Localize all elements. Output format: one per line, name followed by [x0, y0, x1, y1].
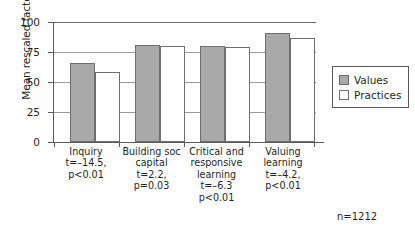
x-label-building-soc-capital-line2: capital	[119, 157, 184, 168]
x-label-critical-responsive-learning-p: p<0.01	[184, 192, 249, 203]
x-label-building-soc-capital-line1: Building soc	[119, 146, 184, 157]
x-label-valuing-learning: Valuing learning t=–4.2, p<0.01	[249, 146, 317, 192]
y-tick-label-50: 50	[27, 76, 40, 88]
y-tick-25: 25	[48, 112, 53, 113]
y-tick-label-75: 75	[27, 46, 40, 58]
x-label-inquiry-line1: Inquiry	[53, 146, 119, 157]
legend-label-practices: Practices	[354, 89, 401, 101]
x-label-critical-responsive-learning-line1: Critical and	[184, 146, 249, 157]
bar-practices-inquiry	[95, 72, 120, 142]
plot-area: 100 75 50 25 0	[53, 22, 316, 142]
x-axis-labels: Inquiry t=–14.5, p<0.01 Building soc cap…	[53, 146, 324, 216]
y-tick-label-25: 25	[27, 106, 40, 118]
y-tick-50: 50	[48, 82, 53, 83]
chart-legend: Values Practices	[332, 66, 409, 108]
y-tick-75: 75	[48, 52, 53, 53]
x-label-valuing-learning-line2: learning	[249, 157, 317, 168]
x-label-valuing-learning-p: p<0.01	[249, 180, 317, 191]
x-label-valuing-learning-line1: Valuing	[249, 146, 317, 157]
bar-group-container	[54, 22, 316, 142]
x-label-critical-responsive-learning-t: t=–6.3	[184, 180, 249, 191]
chart-figure: Mean rescaled factor score 100 75 50 25 …	[0, 0, 415, 242]
y-tick-label-100: 100	[20, 16, 40, 28]
y-tick-100: 100	[48, 22, 53, 23]
bar-practices-valuing-learning	[290, 38, 315, 142]
sample-size-note: n=1212	[337, 211, 377, 222]
legend-swatch-practices	[339, 90, 349, 100]
x-label-valuing-learning-t: t=–4.2,	[249, 169, 317, 180]
legend-label-values: Values	[354, 74, 388, 86]
x-label-building-soc-capital-p: p=0.03	[119, 180, 184, 191]
x-label-inquiry-t: t=–14.5,	[53, 157, 119, 168]
bar-values-critical-responsive-learning	[200, 46, 225, 142]
x-label-building-soc-capital: Building soc capital t=2.2, p=0.03	[119, 146, 184, 192]
bar-values-building-soc-capital	[135, 45, 160, 142]
x-label-critical-responsive-learning-line3: learning	[184, 169, 249, 180]
x-label-critical-responsive-learning-line2: responsive	[184, 157, 249, 168]
legend-item-values: Values	[339, 72, 401, 87]
x-label-inquiry-p: p<0.01	[53, 169, 119, 180]
x-label-inquiry: Inquiry t=–14.5, p<0.01	[53, 146, 119, 180]
y-tick-label-0: 0	[33, 136, 40, 148]
bar-values-valuing-learning	[265, 33, 290, 142]
legend-item-practices: Practices	[339, 87, 401, 102]
x-label-critical-responsive-learning: Critical and responsive learning t=–6.3 …	[184, 146, 249, 203]
x-label-building-soc-capital-t: t=2.2,	[119, 169, 184, 180]
y-tick-0: 0	[48, 142, 53, 143]
bar-practices-building-soc-capital	[160, 46, 185, 142]
bar-values-inquiry	[70, 63, 95, 142]
x-axis-line	[53, 142, 324, 143]
legend-swatch-values	[339, 75, 349, 85]
bar-practices-critical-responsive-learning	[225, 47, 250, 142]
